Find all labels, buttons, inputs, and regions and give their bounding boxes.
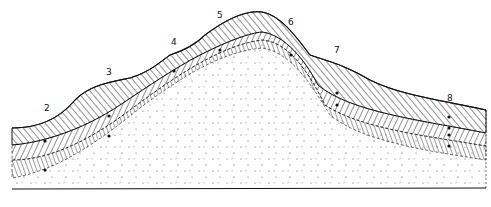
profile-label-3: 3 bbox=[106, 67, 112, 77]
cross-section-diagram bbox=[0, 0, 491, 207]
profile-label-7: 7 bbox=[334, 45, 340, 55]
baseline bbox=[12, 188, 486, 189]
profile-label-4: 4 bbox=[171, 37, 177, 47]
profile-label-2: 2 bbox=[44, 103, 50, 113]
profile-label-5: 5 bbox=[217, 10, 223, 20]
profile-label-6: 6 bbox=[288, 17, 294, 27]
profile-label-8: 8 bbox=[447, 93, 453, 103]
